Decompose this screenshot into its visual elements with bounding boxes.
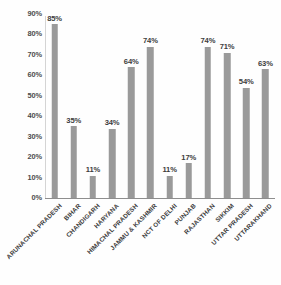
y-axis-tick-0: 0% [0,194,42,202]
bar-value-label: 74% [201,36,216,45]
bar [90,176,97,198]
bar-slot: 71% [218,14,237,198]
bar [262,69,269,198]
bar-slot: 11% [160,14,179,198]
bar-value-label: 54% [239,77,254,86]
bar-value-label: 64% [124,57,139,66]
bar [224,53,231,198]
bar [147,47,154,198]
bar-slot: 35% [64,14,83,198]
bar-slot: 54% [237,14,256,198]
bar-slot: 11% [83,14,102,198]
y-axis-tick-90: 90% [0,10,42,18]
bar-slot: 17% [179,14,198,198]
x-axis-category-label: UTTARAKHAND [233,202,273,242]
bar [51,24,58,198]
y-axis-tick-60: 60% [0,71,42,79]
bar-value-label: 17% [181,153,196,162]
bar [109,129,116,199]
y-axis-tick-30: 30% [0,133,42,141]
bar-slot: 63% [256,14,275,198]
bar [185,163,192,198]
y-axis-tick-10: 10% [0,174,42,182]
bar-slot: 64% [122,14,141,198]
bar-value-label: 11% [162,165,176,174]
bar-chart: 0%10%20%30%40%50%60%70%80%90% 85%35%11%3… [0,0,281,285]
bar-value-label: 11% [86,165,100,174]
y-axis-tick-70: 70% [0,51,42,59]
bar-value-label: 35% [66,116,81,125]
bar [70,126,77,198]
x-axis-line [45,198,275,199]
bar-value-label: 71% [220,42,235,51]
bar-value-label: 63% [258,59,273,68]
bar-value-label: 85% [47,14,62,23]
bar [166,176,173,198]
bar-slot: 85% [45,14,64,198]
y-axis-tick-80: 80% [0,30,42,38]
bar-value-label: 74% [143,36,158,45]
bar-series: 85%35%11%34%64%74%11%17%74%71%54%63% [45,14,275,198]
bar [128,67,135,198]
y-axis-tick-50: 50% [0,92,42,100]
y-axis-tick-40: 40% [0,112,42,120]
x-axis-category-labels: ARUNACHAL PRADESHBIHARCHANDIGARHHARYANAH… [45,200,275,285]
bar-slot: 74% [141,14,160,198]
y-axis-tick-20: 20% [0,153,42,161]
bar [205,47,212,198]
bar [243,88,250,198]
bar-value-label: 34% [105,118,120,127]
bar-slot: 74% [198,14,217,198]
bar-slot: 34% [103,14,122,198]
